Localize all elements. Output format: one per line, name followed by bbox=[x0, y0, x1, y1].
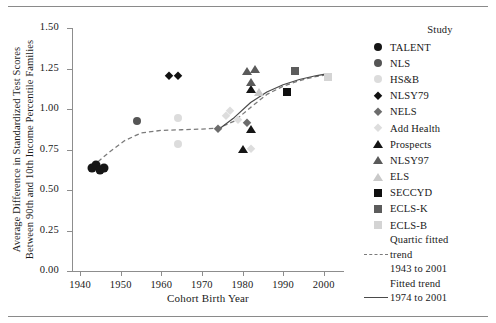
legend-swatch bbox=[360, 201, 390, 217]
y-tick-label: 0.50 bbox=[40, 183, 59, 194]
trend-line bbox=[92, 75, 327, 167]
y-tick-label: 1.00 bbox=[40, 102, 59, 113]
legend-item-hs-b[interactable]: HS&B bbox=[360, 71, 494, 87]
legend-label: Fitted trend1974 to 2001 bbox=[390, 277, 447, 306]
legend-item-prospects[interactable]: Prospects bbox=[360, 136, 494, 152]
x-tick-label: 1980 bbox=[232, 279, 254, 290]
data-point-hs-b bbox=[174, 140, 182, 148]
x-tick bbox=[324, 271, 325, 276]
legend-label: ECLS-B bbox=[390, 220, 427, 231]
x-tick bbox=[80, 271, 81, 276]
legend-label: NELS bbox=[390, 106, 417, 117]
legend-swatch bbox=[360, 88, 390, 104]
circle-marker bbox=[374, 75, 382, 83]
triangle-marker bbox=[373, 156, 383, 164]
legend-label: TALENT bbox=[390, 42, 431, 53]
legend-item-nels[interactable]: NELS bbox=[360, 104, 494, 120]
x-axis-line bbox=[72, 271, 344, 272]
data-point-ecls-b bbox=[324, 73, 332, 81]
data-point-hs-b bbox=[174, 114, 182, 122]
legend-label: NLSY97 bbox=[390, 155, 429, 166]
y-axis-label-line1: Average Difference in Standardized Test … bbox=[10, 28, 23, 271]
data-point-prospects bbox=[238, 145, 248, 153]
circle-marker bbox=[374, 59, 382, 67]
legend-swatch bbox=[360, 246, 390, 262]
trend-lines bbox=[72, 28, 344, 271]
figure: Average Difference in Standardized Test … bbox=[0, 0, 496, 323]
legend-swatch bbox=[360, 71, 390, 87]
legend-swatch bbox=[360, 120, 390, 136]
legend-label: SECCYD bbox=[390, 187, 432, 198]
y-tick-label: 1.25 bbox=[40, 62, 59, 73]
y-tick: 0.00 bbox=[67, 271, 72, 272]
legend-item-fitted-trend[interactable]: Fitted trend1974 to 2001 bbox=[360, 277, 494, 306]
triangle-marker bbox=[373, 173, 383, 181]
legend-item-seccyd[interactable]: SECCYD bbox=[360, 185, 494, 201]
legend-label: ECLS-K bbox=[390, 203, 428, 214]
square-marker bbox=[374, 221, 382, 229]
x-tick-label: 1950 bbox=[110, 279, 132, 290]
y-tick-label: 0.75 bbox=[40, 143, 59, 154]
legend-swatch bbox=[360, 39, 390, 55]
legend-label: ELS bbox=[390, 171, 409, 182]
legend-item-els[interactable]: ELS bbox=[360, 169, 494, 185]
legend-item-nls[interactable]: NLS bbox=[360, 55, 494, 71]
legend-swatch bbox=[360, 169, 390, 185]
legend-swatch bbox=[360, 104, 390, 120]
legend-entries: TALENTNLSHS&BNLSY79NELSAdd HealthProspec… bbox=[360, 39, 494, 306]
legend-item-ecls-k[interactable]: ECLS-K bbox=[360, 201, 494, 217]
x-tick-label: 1960 bbox=[150, 279, 172, 290]
x-tick bbox=[161, 271, 162, 276]
legend-label-line: Fitted trend bbox=[390, 277, 447, 292]
legend-label: NLSY79 bbox=[390, 90, 429, 101]
legend-label-line: 1974 to 2001 bbox=[390, 291, 447, 306]
legend-swatch bbox=[360, 217, 390, 233]
legend-label: Quartic fittedtrend1943 to 2001 bbox=[390, 233, 448, 277]
y-axis-label: Average Difference in Standardized Test … bbox=[10, 28, 36, 271]
diamond-marker bbox=[374, 124, 383, 133]
legend-item-quartic-fitted-trend[interactable]: Quartic fittedtrend1943 to 2001 bbox=[360, 233, 494, 277]
data-point-els bbox=[254, 88, 264, 96]
triangle-marker bbox=[373, 140, 383, 148]
x-tick bbox=[121, 271, 122, 276]
legend: Study TALENTNLSHS&BNLSY79NELSAdd HealthP… bbox=[360, 24, 494, 306]
data-point-ecls-k bbox=[291, 67, 299, 75]
data-point-nlsy97 bbox=[250, 65, 260, 73]
data-point-seccyd bbox=[283, 88, 291, 96]
top-divider-rule bbox=[8, 6, 488, 7]
data-point-nlsy97 bbox=[246, 78, 256, 86]
legend-swatch bbox=[360, 152, 390, 168]
legend-item-nlsy97[interactable]: NLSY97 bbox=[360, 152, 494, 168]
data-point-nls bbox=[133, 117, 141, 125]
y-tick-label: 0.25 bbox=[40, 224, 59, 235]
legend-swatch bbox=[360, 290, 390, 306]
legend-swatch bbox=[360, 55, 390, 71]
circle-marker bbox=[374, 43, 382, 51]
legend-label: HS&B bbox=[390, 74, 419, 85]
y-tick-label: 1.50 bbox=[40, 21, 59, 32]
solid-line-icon bbox=[364, 297, 388, 298]
x-tick bbox=[283, 271, 284, 276]
diamond-marker bbox=[374, 91, 383, 100]
legend-label: NLS bbox=[390, 58, 410, 69]
plot-area: 0.000.250.500.751.001.251.50 19401950196… bbox=[72, 28, 344, 271]
legend-label: Prospects bbox=[390, 139, 432, 150]
bottom-divider-rule bbox=[8, 316, 488, 317]
y-tick-label: 0.00 bbox=[40, 264, 59, 275]
legend-item-nlsy79[interactable]: NLSY79 bbox=[360, 88, 494, 104]
legend-item-talent[interactable]: TALENT bbox=[360, 39, 494, 55]
x-tick-label: 1990 bbox=[272, 279, 294, 290]
dashed-line-icon bbox=[364, 254, 388, 255]
x-tick-label: 1940 bbox=[69, 279, 91, 290]
data-point-talent bbox=[100, 164, 109, 173]
x-tick bbox=[202, 271, 203, 276]
diamond-marker bbox=[374, 107, 383, 116]
legend-label-line: trend bbox=[390, 248, 448, 263]
square-marker bbox=[374, 189, 382, 197]
legend-item-ecls-b[interactable]: ECLS-B bbox=[360, 217, 494, 233]
data-point-prospects bbox=[246, 125, 256, 133]
x-tick bbox=[243, 271, 244, 276]
legend-label: Add Health bbox=[390, 123, 440, 134]
legend-label-line: Quartic fitted bbox=[390, 233, 448, 248]
legend-item-add-health[interactable]: Add Health bbox=[360, 120, 494, 136]
